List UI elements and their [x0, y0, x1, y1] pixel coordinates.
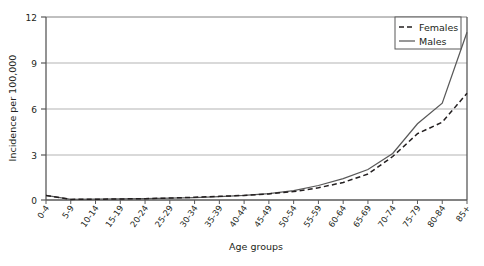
x-axis-title: Age groups	[229, 241, 283, 252]
chart-canvas: 12 9 6 3 0 Incidence per 100,000 0-45-91…	[0, 0, 484, 266]
legend-label-females: Females	[419, 22, 458, 33]
x-tick-label-30-34: 30-34	[178, 203, 200, 229]
y-tick-label-3: 3	[31, 151, 37, 161]
x-tick-label-20-24: 20-24	[128, 203, 150, 229]
y-tick-label-0: 0	[31, 196, 37, 206]
x-tick-label-10-14: 10-14	[79, 203, 101, 229]
x-tick-label-75-79: 75-79	[400, 203, 422, 229]
x-tick-label-65-69: 65-69	[351, 203, 373, 229]
y-tick-label-6: 6	[31, 105, 37, 115]
legend-label-males: Males	[419, 36, 447, 47]
x-tick-label-60-64: 60-64	[326, 203, 348, 229]
x-tick-label-70-74: 70-74	[376, 203, 398, 229]
x-tick-label-80-84: 80-84	[425, 203, 447, 229]
x-tick-label-35-39: 35-39	[202, 203, 224, 229]
x-tick-label-55-59: 55-59	[301, 203, 323, 229]
legend: Females Males	[395, 17, 461, 49]
x-tick-label-0-4: 0-4	[35, 203, 51, 220]
y-axis-ticks	[41, 17, 46, 200]
x-tick-label-85+: 85+	[454, 203, 472, 223]
x-axis-tick-labels: 0-45-910-1415-1920-2425-2930-3435-3940-4…	[35, 203, 472, 229]
x-tick-label-25-29: 25-29	[153, 203, 175, 229]
x-tick-label-40-44: 40-44	[227, 203, 249, 229]
incidence-by-age-chart: 12 9 6 3 0 Incidence per 100,000 0-45-91…	[0, 0, 484, 266]
x-tick-label-15-19: 15-19	[103, 203, 125, 229]
x-tick-label-5-9: 5-9	[60, 203, 76, 220]
x-tick-label-50-54: 50-54	[277, 203, 299, 229]
x-tick-label-45-49: 45-49	[252, 203, 274, 229]
y-tick-label-9: 9	[31, 59, 37, 69]
y-axis-title: Incidence per 100,000	[7, 55, 18, 162]
y-tick-label-12: 12	[26, 13, 37, 23]
